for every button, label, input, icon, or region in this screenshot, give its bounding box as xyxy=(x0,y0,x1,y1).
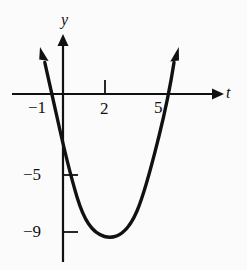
graph-figure: y t −1 2 5 −5 −9 xyxy=(0,0,247,270)
x-tick-label-2: 2 xyxy=(100,100,109,117)
t-axis-arrowhead xyxy=(212,89,224,100)
x-tick-label-neg1: −1 xyxy=(28,99,46,116)
right-branch-arrowhead xyxy=(170,47,179,62)
left-branch-arrowhead xyxy=(39,47,48,61)
parabola-curve xyxy=(45,63,174,238)
y-axis-label: y xyxy=(61,12,68,28)
x-tick-label-5: 5 xyxy=(154,99,163,116)
y-axis-arrowhead xyxy=(58,34,69,46)
y-tick-label-neg9: −9 xyxy=(23,223,41,240)
t-axis-label: t xyxy=(226,85,230,101)
y-tick-label-neg5: −5 xyxy=(23,166,41,183)
